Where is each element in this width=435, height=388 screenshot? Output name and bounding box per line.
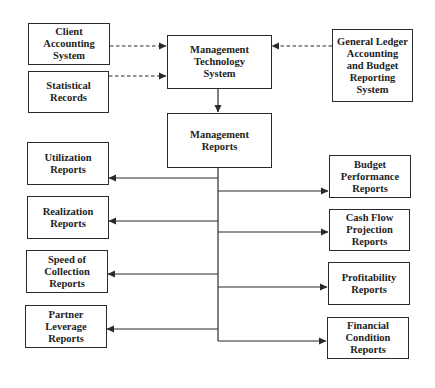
- management-technology-system-label: Management Technology System: [190, 44, 249, 80]
- realization-reports-label: Realization Reports: [43, 206, 94, 230]
- profitability-reports-box: Profitability Reports: [328, 262, 410, 305]
- budget-performance-reports-label: Budget Performance Reports: [341, 159, 399, 195]
- utilization-reports-label: Utilization Reports: [44, 152, 91, 176]
- diagram-canvas: Client Accounting System Statistical Rec…: [0, 0, 435, 388]
- management-technology-system-box: Management Technology System: [167, 35, 272, 89]
- profitability-reports-label: Profitability Reports: [342, 272, 397, 296]
- partner-leverage-reports-box: Partner Leverage Reports: [25, 305, 107, 348]
- financial-condition-reports-box: Financial Condition Reports: [327, 317, 409, 359]
- general-ledger-box: General Ledger Accounting and Budget Rep…: [332, 29, 413, 102]
- realization-reports-box: Realization Reports: [27, 196, 109, 239]
- speed-of-collection-reports-label: Speed of Collection Reports: [44, 254, 90, 290]
- utilization-reports-box: Utilization Reports: [27, 142, 109, 185]
- partner-leverage-reports-label: Partner Leverage Reports: [45, 309, 86, 345]
- financial-condition-reports-label: Financial Condition Reports: [346, 320, 391, 356]
- management-reports-box: Management Reports: [167, 113, 272, 168]
- speed-of-collection-reports-box: Speed of Collection Reports: [26, 250, 108, 293]
- statistical-records-box: Statistical Records: [28, 71, 109, 113]
- general-ledger-label: General Ledger Accounting and Budget Rep…: [337, 36, 408, 96]
- management-reports-label: Management Reports: [190, 129, 249, 153]
- client-accounting-system-box: Client Accounting System: [28, 23, 110, 65]
- budget-performance-reports-box: Budget Performance Reports: [329, 155, 411, 198]
- statistical-records-label: Statistical Records: [46, 80, 90, 104]
- cash-flow-projection-reports-box: Cash Flow Projection Reports: [329, 209, 410, 251]
- client-accounting-system-label: Client Accounting System: [43, 26, 94, 62]
- cash-flow-projection-reports-label: Cash Flow Projection Reports: [346, 212, 394, 248]
